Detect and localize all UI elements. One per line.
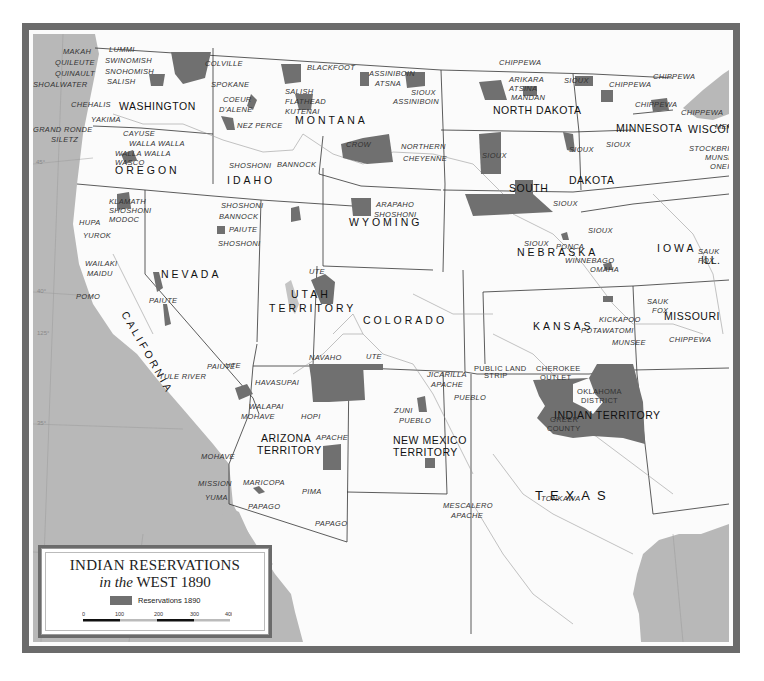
label-utah-territory: TERRITORY (269, 302, 356, 314)
reservation-label: SHOALWATER (33, 80, 88, 89)
graticule-label: 125° (37, 330, 50, 336)
reservation-label: MODOC (109, 215, 140, 224)
reservation-label: ARAPAHO (375, 200, 414, 209)
legend-key-label: Reservations 1890 (138, 596, 201, 605)
reservation-label: POTAWATOMI (581, 326, 634, 335)
reservation-label: SIOUX (482, 151, 508, 160)
label-greer: GREER (550, 415, 578, 424)
reservation-label: SIOUX (564, 76, 590, 85)
reservation-label: LUMMI (109, 45, 135, 54)
label-arizona: ARIZONA (261, 432, 311, 444)
reservation-label: PAIUTE (207, 362, 236, 371)
reservation-label: MAKAH (63, 47, 91, 56)
reservation-label: PUEBLO (454, 393, 486, 402)
reservation-label: FOX (652, 306, 669, 315)
svg-text:300: 300 (190, 611, 199, 617)
reservation-label: SALISH (285, 87, 314, 96)
reservation-label: NEZ PERCE (237, 121, 283, 130)
label-nevada: NEVADA (161, 268, 221, 280)
label-utah: UTAH (291, 288, 331, 300)
reservation-label: SIOUX (588, 226, 614, 235)
reservation-label: CHIPPEWA (499, 58, 541, 67)
graticule-label: 40° (37, 288, 47, 294)
reservation-label: YAKIMA (91, 115, 121, 124)
reservation-label: CHIPPEWA (681, 108, 723, 117)
graticule-label: 45° (36, 159, 46, 165)
reservation-label: OMAHA (590, 265, 619, 274)
reservation-label: SIOUX (411, 88, 437, 97)
label-cherokee: CHEROKEE (536, 364, 581, 373)
label-cherokee-outlet: OUTLET (540, 373, 572, 382)
reservation-label: WAILAKI (85, 259, 117, 268)
reservation-label: MOHAVE (241, 412, 276, 421)
reservation-label: SHOSHONI (218, 239, 260, 248)
reservation-label: SHOSHONI (229, 161, 271, 170)
reservation-label: CROW (346, 140, 372, 149)
reservation-label: WALAPAI (249, 402, 284, 411)
reservation-label: SHOSHONI (109, 206, 151, 215)
reservation-label: WALLA WALLA (129, 139, 185, 148)
reservation-label: WASCO (115, 158, 145, 167)
label-new-mexico-territory: TERRITORY (393, 446, 458, 458)
reservation-label: UTE (366, 352, 383, 361)
legend-subtitle-rest: WEST 1890 (136, 574, 210, 590)
reservation-label: STOCKBRIDGE (689, 144, 729, 153)
reservation-label: SIOUX (553, 199, 579, 208)
reservation-label: BANNOCK (219, 212, 259, 221)
reservation-label: D'ALENE (219, 105, 253, 114)
reservation-label: SHOSHONI (374, 210, 416, 219)
reservation-label: POMO (76, 292, 100, 301)
reservation-label: APACHE (430, 380, 464, 389)
reservation-label: KICKAPOO (599, 315, 641, 324)
reservation-label: MANDAN (511, 93, 546, 102)
reservation-label: PAPAGO (248, 502, 280, 511)
legend-subtitle-italic: in the (99, 574, 133, 590)
reservation-label: ONEIDA (710, 162, 729, 171)
reservation-label: FLATHEAD (285, 97, 326, 106)
svg-text:0: 0 (82, 611, 85, 617)
label-public-land-strip: STRIP (484, 371, 508, 380)
reservation-label: CHEYENNE (403, 154, 448, 163)
label-missouri: MISSOURI (664, 310, 720, 322)
reservation-label: YUMA (205, 493, 228, 502)
reservation-label: CHIPPEWA (635, 100, 677, 109)
reservation-label: PIMA (302, 487, 322, 496)
reservation-label: MUNSEE (612, 338, 647, 347)
reservation-label: SWINOMISH (105, 56, 152, 65)
label-washington: WASHINGTON (119, 100, 196, 112)
reservation-label: CAYUSE (123, 129, 156, 138)
reservation-label: GRAND RONDE (33, 125, 93, 134)
reservation-label: MAIDU (87, 269, 113, 278)
reservation-label: HAVASUPAI (255, 378, 299, 387)
reservation-label: MENOMINI (715, 122, 729, 131)
svg-text:100: 100 (115, 611, 124, 617)
reservation-label: ATSINA (508, 84, 537, 93)
reservation-label: SNOHOMISH (105, 67, 154, 76)
scale-bar: 0 100 200 300 400 (82, 609, 232, 627)
label-dakota: DAKOTA (569, 174, 614, 186)
reservation-label: MUNSEE (705, 153, 729, 162)
label-arizona-territory: TERRITORY (257, 444, 322, 456)
label-oklahoma: OKLAHOMA (577, 387, 622, 396)
reservation-label: MOHAVE (201, 452, 236, 461)
reservation-label: ASSINIBOIN (392, 97, 439, 106)
label-minnesota: MINNESOTA (616, 122, 682, 134)
reservation-label: ASSINIBOIN (368, 69, 415, 78)
label-greer-county: COUNTY (547, 424, 580, 433)
reservation-label: CHIPPEWA (669, 335, 711, 344)
reservation-label: CHIPPEWA (609, 80, 651, 89)
reservation-label: SALISH (107, 77, 136, 86)
label-iowa: IOWA (657, 242, 697, 254)
reservation-label: YUROK (83, 231, 112, 240)
label-south: SOUTH (509, 182, 548, 194)
reservation-label: HOPI (301, 412, 321, 421)
reservation-label: MISSION (198, 479, 232, 488)
reservation-label: PONCA (556, 242, 584, 251)
reservation-label: BANNOCK (277, 160, 317, 169)
reservation-label: SILETZ (51, 135, 78, 144)
label-oklahoma-district: DISTRICT (581, 396, 618, 405)
reservation-label: UTE (309, 267, 326, 276)
reservation-label: CHEHALIS (71, 100, 111, 109)
label-colorado: COLORADO (363, 314, 447, 326)
reservation-label: BLACKFOOT (307, 63, 356, 72)
